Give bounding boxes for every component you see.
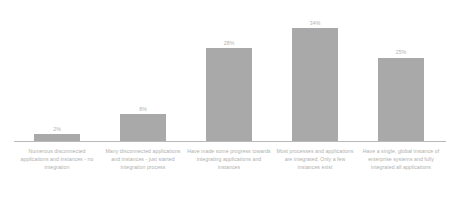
bar[interactable] — [120, 114, 166, 141]
bar-group: 34% — [272, 8, 358, 141]
bar-group: 25% — [358, 8, 444, 141]
bar-value-label: 25% — [396, 50, 407, 55]
bar[interactable] — [292, 28, 338, 141]
bar[interactable] — [34, 134, 80, 141]
bar-chart: 2% 8% 28% 34% 25% Numerous disconne — [0, 0, 458, 205]
category-labels: Numerous disconnected applications and i… — [14, 147, 444, 171]
category-label: Have made some progress towards integrat… — [186, 147, 272, 171]
category-label: Most processes and applications are inte… — [272, 147, 358, 171]
bar-value-label: 8% — [139, 107, 147, 112]
category-label: Many disconnected applications and insta… — [100, 147, 186, 171]
bar[interactable] — [378, 58, 424, 141]
bars-container: 2% 8% 28% 34% 25% — [14, 8, 444, 141]
category-label: Numerous disconnected applications and i… — [14, 147, 100, 171]
plot-area: 2% 8% 28% 34% 25% — [14, 8, 444, 141]
bar-group: 8% — [100, 8, 186, 141]
bar-value-label: 28% — [224, 41, 235, 46]
x-axis-line — [14, 141, 446, 142]
bar-group: 2% — [14, 8, 100, 141]
bar[interactable] — [206, 48, 252, 141]
category-label: Have a single, global instance of enterp… — [358, 147, 444, 171]
bar-group: 28% — [186, 8, 272, 141]
bar-value-label: 34% — [310, 21, 321, 26]
bar-value-label: 2% — [53, 127, 61, 132]
